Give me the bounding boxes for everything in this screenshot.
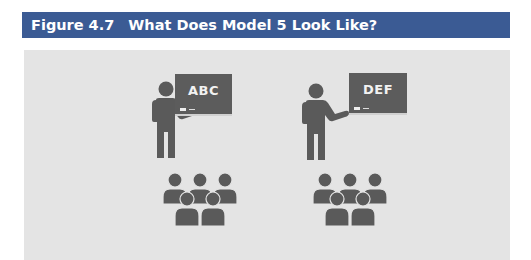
students-group-icon [312, 171, 388, 227]
figure-header: Figure 4.7What Does Model 5 Look Like? [22, 12, 510, 38]
eraser-line [363, 108, 369, 109]
figure-title: What Does Model 5 Look Like? [128, 17, 377, 33]
chalkboard-text: DEF [349, 82, 407, 97]
figure-number: Figure 4.7 [31, 17, 114, 33]
teacher-icon [302, 82, 354, 162]
classroom-scene-2: DEF [24, 50, 510, 250]
chalk-icon [354, 107, 360, 110]
figure-panel: ABC DEF [24, 50, 510, 260]
chalkboard-2: DEF [349, 73, 407, 115]
